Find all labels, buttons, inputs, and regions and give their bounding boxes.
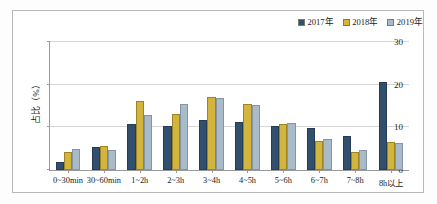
x-tick-mark: [247, 170, 248, 173]
bar-group: 0~30min: [50, 42, 86, 170]
x-tick-mark: [391, 170, 392, 173]
x-tick-mark: [104, 170, 105, 173]
legend-item-2018[interactable]: 2018年: [343, 18, 379, 27]
bar[interactable]: [127, 124, 135, 170]
bar[interactable]: [136, 101, 144, 170]
bar[interactable]: [387, 142, 395, 170]
x-tick-label: 3~4h: [203, 176, 220, 185]
legend-item-2017[interactable]: 2017年: [298, 18, 334, 27]
bar-group: 4~5h: [230, 42, 266, 170]
bar[interactable]: [56, 162, 64, 170]
legend-swatch-2018: [343, 19, 350, 26]
bar[interactable]: [108, 150, 116, 170]
bar-group: 7~8h: [337, 42, 373, 170]
bar[interactable]: [271, 126, 279, 170]
bar[interactable]: [395, 143, 403, 170]
bar-group: 3~4h: [194, 42, 230, 170]
plot-area: 0102030 0~30min30~60min1~2h2~3h3~4h4~5h5…: [49, 42, 409, 171]
x-tick-label: 7~8h: [347, 176, 364, 185]
bar[interactable]: [72, 149, 80, 170]
bar-group: 8h以上: [373, 42, 409, 170]
bar[interactable]: [92, 147, 100, 170]
bar[interactable]: [243, 104, 251, 170]
bar[interactable]: [180, 104, 188, 170]
bar[interactable]: [307, 128, 315, 170]
legend-label-2017: 2017年: [307, 18, 333, 27]
y-axis-title: 占比（%）: [29, 80, 42, 124]
bar[interactable]: [359, 150, 367, 170]
bar[interactable]: [144, 115, 152, 170]
bar-group: 1~2h: [122, 42, 158, 170]
bar[interactable]: [323, 139, 331, 170]
x-tick-mark: [212, 170, 213, 173]
x-tick-mark: [140, 170, 141, 173]
bar-groups: 0~30min30~60min1~2h2~3h3~4h4~5h5~6h6~7h7…: [50, 42, 409, 170]
x-tick-label: 5~6h: [275, 176, 292, 185]
bar-group: 5~6h: [265, 42, 301, 170]
bar[interactable]: [216, 98, 224, 170]
bar[interactable]: [252, 105, 260, 170]
bar[interactable]: [287, 123, 295, 170]
bar[interactable]: [343, 136, 351, 170]
x-tick-mark: [68, 170, 69, 173]
bar[interactable]: [279, 124, 287, 170]
bar[interactable]: [207, 97, 215, 170]
x-tick-mark: [355, 170, 356, 173]
bar-group: 30~60min: [86, 42, 122, 170]
chart-legend: 2017年 2018年 2019年: [298, 18, 423, 27]
legend-swatch-2017: [298, 19, 305, 26]
bar[interactable]: [163, 126, 171, 170]
x-tick-label: 30~60min: [87, 176, 121, 185]
x-tick-mark: [176, 170, 177, 173]
bar[interactable]: [199, 120, 207, 170]
bar[interactable]: [172, 114, 180, 170]
x-tick-label: 4~5h: [239, 176, 256, 185]
x-tick-label: 8h以上: [379, 176, 403, 188]
bar[interactable]: [235, 122, 243, 170]
bar-group: 6~7h: [301, 42, 337, 170]
legend-item-2019[interactable]: 2019年: [387, 18, 423, 27]
legend-label-2018: 2018年: [352, 18, 378, 27]
x-tick-mark: [283, 170, 284, 173]
x-tick-label: 6~7h: [311, 176, 328, 185]
x-tick-label: 0~30min: [53, 176, 83, 185]
legend-label-2019: 2019年: [397, 18, 423, 27]
bar[interactable]: [64, 152, 72, 170]
legend-swatch-2019: [387, 19, 394, 26]
bar[interactable]: [315, 141, 323, 170]
bar[interactable]: [351, 152, 359, 170]
x-tick-label: 2~3h: [167, 176, 184, 185]
bar[interactable]: [100, 146, 108, 170]
x-tick-label: 1~2h: [131, 176, 148, 185]
chart-figure: 2017年 2018年 2019年 占比（%） 0102030 0~30min3…: [0, 0, 437, 204]
x-tick-mark: [319, 170, 320, 173]
bar[interactable]: [379, 82, 387, 170]
bar-group: 2~3h: [158, 42, 194, 170]
